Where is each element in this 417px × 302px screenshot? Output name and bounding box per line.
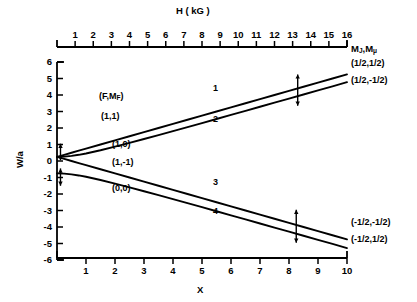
breit-rabi-figure: H ( kG ) MJ,Mμ W/a X (F,MF) (1,1) (1,0) … xyxy=(0,0,417,302)
left-axis-tick-label: 1 xyxy=(47,139,53,150)
left-axis-tick-label: -3 xyxy=(44,205,52,216)
bottom-axis-tick-label: 9 xyxy=(315,265,320,276)
transition-arrow-upper-head-bottom xyxy=(296,102,300,106)
bottom-axis-tick-label: 7 xyxy=(257,265,262,276)
left-axis-tick-label: -2 xyxy=(44,188,52,199)
bottom-axis-tick-label: 3 xyxy=(141,265,146,276)
left-axis-tick-label: -5 xyxy=(44,238,53,249)
top-axis-tick-label: 14 xyxy=(305,29,316,40)
axes-layer xyxy=(57,40,347,264)
top-axis-tick-label: 16 xyxy=(342,29,353,40)
curve-layer xyxy=(57,74,347,248)
left-axis-tick-label: 4 xyxy=(47,89,53,100)
curve-1 xyxy=(57,74,347,157)
top-axis-tick-label: 10 xyxy=(233,29,244,40)
curve-2 xyxy=(57,82,347,157)
left-axis-tick-label: 2 xyxy=(47,122,52,133)
transition-arrow-lower-head-bottom xyxy=(294,238,298,242)
left-axis-tick-label: 5 xyxy=(47,73,53,84)
bottom-axis-tick-label: 6 xyxy=(228,265,233,276)
transition-arrow-upper-head-top xyxy=(296,74,300,78)
bottom-axis-tick-label: 2 xyxy=(112,265,117,276)
transition-arrow-origin-lower-head-top xyxy=(58,168,62,172)
left-axis-tick-label: -4 xyxy=(44,221,53,232)
top-axis-tick-label: 7 xyxy=(181,29,186,40)
bottom-axis-tick-label: 5 xyxy=(199,265,205,276)
left-axis-tick-label: -6 xyxy=(44,254,52,265)
top-axis-tick-label: 9 xyxy=(217,29,222,40)
top-axis-tick-label: 8 xyxy=(199,29,204,40)
left-axis-tick-label: 0 xyxy=(47,155,52,166)
top-axis-tick-label: 15 xyxy=(324,29,335,40)
arrow-layer xyxy=(58,74,300,242)
top-axis-tick-label: 5 xyxy=(145,29,151,40)
curve-4 xyxy=(57,173,347,248)
top-axis-tick-label: 4 xyxy=(127,29,133,40)
top-axis-tick-label: 1 xyxy=(72,29,78,40)
left-axis-tick-label: 6 xyxy=(47,56,52,67)
top-axis-tick-label: 2 xyxy=(91,29,96,40)
top-axis-tick-label: 13 xyxy=(287,29,298,40)
plot-canvas: 1234567891011121314151612345678910654321… xyxy=(0,0,417,302)
bottom-axis-tick-label: 4 xyxy=(170,265,176,276)
transition-arrow-origin-lower-head-bottom xyxy=(58,182,62,186)
transition-arrow-upper xyxy=(296,74,300,105)
left-axis-tick-label: -1 xyxy=(44,172,53,183)
curve-3 xyxy=(57,157,347,240)
top-axis-tick-label: 11 xyxy=(251,29,262,40)
top-axis-tick-label: 3 xyxy=(109,29,114,40)
transition-arrow-lower-head-top xyxy=(294,210,298,214)
bottom-axis-tick-label: 1 xyxy=(83,265,89,276)
left-axis-tick-label: 3 xyxy=(47,106,52,117)
top-axis-tick-label: 6 xyxy=(163,29,168,40)
bottom-axis-tick-label: 10 xyxy=(342,265,353,276)
top-axis-tick-label: 12 xyxy=(269,29,280,40)
bottom-axis-tick-label: 8 xyxy=(286,265,291,276)
